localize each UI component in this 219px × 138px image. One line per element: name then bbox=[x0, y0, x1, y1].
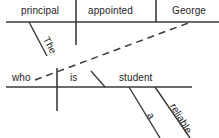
word-student: student bbox=[119, 72, 153, 83]
word-who: who bbox=[12, 72, 31, 83]
word-principal: principal bbox=[21, 5, 59, 16]
word-george: George bbox=[172, 5, 206, 16]
sentence-diagram: principal appointed George The who is st… bbox=[0, 0, 219, 138]
predicate-nominative-slant bbox=[91, 71, 105, 87]
word-is: is bbox=[70, 72, 77, 83]
word-appointed: appointed bbox=[88, 5, 133, 16]
